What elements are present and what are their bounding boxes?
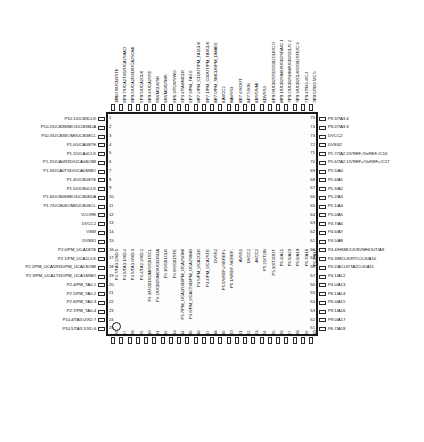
pin-label: P9.7/UCA2TXD/UCA2SIMO [123,47,128,100]
pin-pad[interactable] [111,104,115,111]
pin-pad[interactable] [98,275,105,279]
pin-label: P10.4/TA3.0/XD.7 [0,318,96,323]
pin-number: 7 [109,169,111,173]
pin-pad[interactable] [98,292,105,296]
pin-pad[interactable] [98,135,105,139]
pin-pad[interactable] [251,104,255,111]
pin-pad[interactable] [98,126,105,130]
pin-pad[interactable] [319,117,326,121]
pin-label: VSW [0,230,96,235]
pin-pad[interactable] [319,143,326,147]
pin-pad[interactable] [319,275,326,279]
pin-pad[interactable] [98,327,105,331]
pin-pad[interactable] [98,310,105,314]
pin-pad[interactable] [319,170,326,174]
pin-pad[interactable] [319,318,326,322]
pin-pad[interactable] [243,104,247,111]
pin-label: P5.2/XT2IN [263,249,268,347]
pin-pad[interactable] [319,327,326,331]
pin-pad[interactable] [98,117,105,121]
pin-pad[interactable] [98,187,105,191]
pin-label: P5.4/A1 [328,178,343,183]
pin-number: 4 [109,143,111,147]
pin-pad[interactable] [98,257,105,261]
pin-label: P7.3/PM_TA0.0 [189,71,194,100]
pin-pad[interactable] [98,178,105,182]
pin-label: P9.5/TB3.5/C.5 [313,71,318,100]
pin-pad[interactable] [218,104,222,111]
pin-pad[interactable] [210,104,214,111]
pin-pad[interactable] [309,104,313,111]
pin-pad[interactable] [319,257,326,261]
pin-pad[interactable] [319,310,326,314]
pin-pad[interactable] [161,104,165,111]
pin-pad[interactable] [136,104,140,111]
pin-pad[interactable] [319,187,326,191]
pin-pad[interactable] [98,222,105,226]
pin-pad[interactable] [98,143,105,147]
pin-label: DVCC2 [247,249,252,347]
pin-pad[interactable] [194,104,198,111]
pin-pad[interactable] [98,213,105,217]
pin-pad[interactable] [276,104,280,111]
pin-pad[interactable] [98,301,105,305]
pin-pad[interactable] [227,104,231,111]
pin-label: P5.7/TA2.2/VREF-/VeREF-/C16 [328,152,387,157]
pin-pad[interactable] [98,240,105,244]
pin-pad[interactable] [177,104,181,111]
pin-pad[interactable] [152,104,156,111]
pin-pad[interactable] [319,205,326,209]
pin-pad[interactable] [301,104,305,111]
pin-label: P4.7/A6 [328,222,343,227]
pin-pad[interactable] [268,104,272,111]
pin-pad[interactable] [319,283,326,287]
pin-label: P5.1/A4 [328,204,343,209]
pin-pad[interactable] [98,196,105,200]
pin-label: P9.1/A16 [328,309,345,314]
pin-pad[interactable] [319,178,326,182]
pin-label: P9.0/A17 [328,318,345,323]
pin-pad[interactable] [319,126,326,130]
pin-pad[interactable] [98,170,105,174]
pin-pad[interactable] [319,266,326,270]
pin-pad[interactable] [202,104,206,111]
pin-pad[interactable] [260,104,264,111]
pin-pad[interactable] [293,104,297,111]
pin-label: P5.1/VREF-/VEREF- [230,249,235,347]
pin-label: AVSS1 [239,249,244,347]
pin-pad[interactable] [98,161,105,165]
pin-pad[interactable] [98,152,105,156]
pin-pad[interactable] [235,104,239,111]
pin-pad[interactable] [284,104,288,111]
pin-pad[interactable] [98,318,105,322]
pin-pad[interactable] [98,283,105,287]
pin-number: 8 [109,178,111,182]
pin-pad[interactable] [319,135,326,139]
pin-label: P5.2/A3 [328,195,343,200]
pin-pad[interactable] [319,231,326,235]
pin-pad[interactable] [98,205,105,209]
pin-pad[interactable] [319,196,326,200]
pin-pad[interactable] [169,104,173,111]
pin-pad[interactable] [319,213,326,217]
pin-pad[interactable] [119,104,123,111]
pin-pad[interactable] [98,248,105,252]
pin-pad[interactable] [185,104,189,111]
pin-label: AVCC2 [255,249,260,347]
pin-pad[interactable] [319,152,326,156]
pin-pad[interactable] [319,240,326,244]
pin-pad[interactable] [98,266,105,270]
pin-label: P1.7/UCB0SOMI/UCB0SCL [0,204,96,209]
pin-label: P4.4/HSMCLK/SVMHOUT/A9 [328,248,384,253]
pin-label: P1.6/UCB0SIMO/UCB0SDA [0,195,96,200]
pin-number: 12 [109,213,114,217]
pin-pad[interactable] [319,301,326,305]
pin-pad[interactable] [319,222,326,226]
pin-pad[interactable] [319,248,326,252]
pin-pad[interactable] [319,161,326,165]
pin-label: P1.0/UCA0STE [0,143,96,148]
pin-pad[interactable] [98,231,105,235]
pin-pad[interactable] [144,104,148,111]
pin-pad[interactable] [128,104,132,111]
pin-pad[interactable] [319,292,326,296]
